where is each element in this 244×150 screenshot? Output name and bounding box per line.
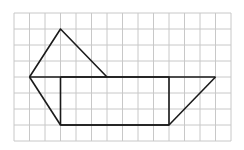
upper-quadrilateral [30, 29, 108, 77]
rectangle [61, 77, 170, 125]
grid-diagram [0, 0, 244, 150]
right-slant-edge [169, 77, 216, 125]
